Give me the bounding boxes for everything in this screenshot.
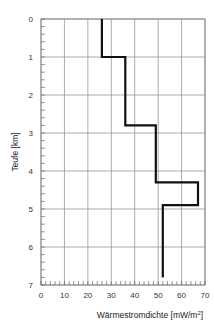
svg-text:10: 10 xyxy=(60,291,69,300)
svg-text:50: 50 xyxy=(154,291,163,300)
svg-text:70: 70 xyxy=(201,291,210,300)
svg-text:1: 1 xyxy=(29,53,34,62)
svg-text:5: 5 xyxy=(29,205,34,214)
heat-flow-profile-line xyxy=(102,19,198,277)
svg-text:2: 2 xyxy=(29,91,34,100)
x-tick-labels: 010203040506070 xyxy=(39,291,210,300)
svg-text:0: 0 xyxy=(29,15,34,24)
svg-text:0: 0 xyxy=(39,291,44,300)
svg-text:3: 3 xyxy=(29,129,34,138)
svg-text:6: 6 xyxy=(29,243,34,252)
svg-text:30: 30 xyxy=(107,291,116,300)
grid xyxy=(41,19,205,285)
y-tick-labels: 01234567 xyxy=(29,15,34,290)
y-axis-label: Teufe [km] xyxy=(10,132,20,171)
svg-text:20: 20 xyxy=(83,291,92,300)
svg-text:60: 60 xyxy=(177,291,186,300)
heat-flow-depth-chart: 010203040506070 01234567 Wärmestromdicht… xyxy=(0,0,214,332)
svg-text:40: 40 xyxy=(130,291,139,300)
svg-text:4: 4 xyxy=(29,167,34,176)
minor-ticks xyxy=(41,19,205,285)
x-axis-label: Wärmestromdichte [mW/m2] xyxy=(97,310,203,320)
svg-text:7: 7 xyxy=(29,281,34,290)
